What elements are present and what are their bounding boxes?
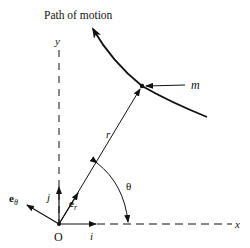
unit-vector-j-label: j (45, 191, 50, 203)
unit-vector-etheta-label: eθ (9, 192, 18, 207)
y-axis-label: y (54, 35, 60, 47)
unit-vector-er-label: er (69, 197, 78, 212)
particle-dot (140, 84, 144, 88)
unit-vector-i-label: i (90, 230, 93, 242)
unit-vector-etheta-arrow (27, 205, 59, 224)
path-of-motion-curve (93, 29, 207, 117)
path-of-motion-label: Path of motion (44, 9, 113, 21)
radius-label: r (106, 128, 111, 140)
angle-theta-label: θ (126, 180, 131, 192)
polar-coordinates-diagram: Path of motion y x m r er j i eθ θ O (0, 0, 250, 248)
origin-dot (57, 222, 61, 226)
x-axis-label: x (234, 218, 240, 230)
mass-pointer-arrow (146, 85, 185, 86)
mass-label: m (191, 78, 200, 92)
origin-label: O (54, 230, 63, 244)
angle-theta-arc (97, 163, 128, 222)
